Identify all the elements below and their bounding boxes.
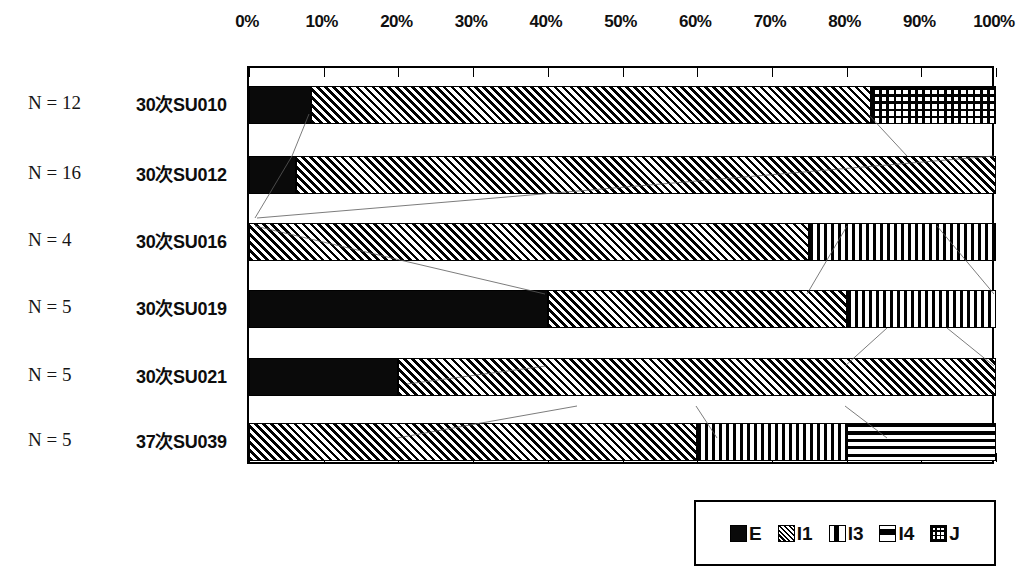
legend-item-e[interactable]: E <box>730 524 762 543</box>
bar-row <box>249 358 992 396</box>
bar-segment-i3 <box>697 423 846 461</box>
legend-swatch-icon <box>879 525 896 542</box>
legend-item-i3[interactable]: I3 <box>829 524 864 543</box>
bar-segment-i4 <box>847 423 996 461</box>
tick-mark <box>996 68 997 77</box>
bar-row <box>249 223 992 261</box>
bar-segment-e <box>249 358 398 396</box>
category-label: 30次SU012 <box>136 154 227 192</box>
bar-segment-i1 <box>311 86 871 124</box>
sample-size-label: N = 5 <box>28 356 71 394</box>
legend: EI1I3I4J <box>694 500 996 566</box>
x-tick-label: 10% <box>305 12 338 32</box>
x-tick-label: 100% <box>973 12 1014 32</box>
legend-label: I4 <box>898 524 914 543</box>
bar-row <box>249 423 992 461</box>
bar-segment-i3 <box>809 223 996 261</box>
x-axis-tick-labels: 0%10%20%30%40%50%60%70%80%90%100% <box>247 12 994 36</box>
category-label: 30次SU019 <box>136 288 227 326</box>
bar-segment-e <box>249 156 296 194</box>
bar-row <box>249 290 992 328</box>
legend-item-j[interactable]: J <box>930 524 960 543</box>
legend-swatch-icon <box>930 525 947 542</box>
bar-row <box>249 86 992 124</box>
bar-segment-j <box>871 86 996 124</box>
legend-swatch-icon <box>829 525 846 542</box>
bar-row <box>249 156 992 194</box>
category-label: 37次SU039 <box>136 421 227 459</box>
legend-label: E <box>749 524 762 543</box>
sample-size-label: N = 16 <box>28 154 81 192</box>
x-tick-label: 40% <box>530 12 563 32</box>
sample-size-label: N = 12 <box>28 84 81 122</box>
bar-segment-i1 <box>548 290 847 328</box>
sample-size-label: N = 5 <box>28 288 71 326</box>
x-tick-label: 70% <box>754 12 787 32</box>
legend-label: I3 <box>848 524 864 543</box>
x-tick-label: 30% <box>455 12 488 32</box>
x-tick-label: 50% <box>604 12 637 32</box>
chart-page: { "chart_data": { "type": "bar", "orient… <box>0 0 1031 586</box>
bar-segment-e <box>249 86 311 124</box>
x-tick-label: 90% <box>903 12 936 32</box>
x-tick-label: 60% <box>679 12 712 32</box>
legend-swatch-icon <box>730 525 747 542</box>
bar-segment-i3 <box>847 290 996 328</box>
x-tick-label: 0% <box>235 12 259 32</box>
legend-item-i4[interactable]: I4 <box>879 524 914 543</box>
legend-label: J <box>949 524 960 543</box>
bar-segment-e <box>249 290 548 328</box>
sample-size-label: N = 4 <box>28 221 71 259</box>
bar-segment-i1 <box>249 423 697 461</box>
category-label: 30次SU016 <box>136 221 227 259</box>
sample-size-label: N = 5 <box>28 421 71 459</box>
x-tick-label: 20% <box>380 12 413 32</box>
category-label: 30次SU021 <box>136 356 227 394</box>
legend-item-i1[interactable]: I1 <box>778 524 813 543</box>
bar-segment-i1 <box>296 156 996 194</box>
plot-area <box>247 66 994 464</box>
legend-swatch-icon <box>778 525 795 542</box>
stacked-bars <box>249 68 992 462</box>
x-tick-label: 80% <box>828 12 861 32</box>
tick-mark <box>996 453 997 462</box>
bar-segment-i1 <box>249 223 809 261</box>
legend-label: I1 <box>797 524 813 543</box>
category-label: 30次SU010 <box>136 84 227 122</box>
bar-segment-i1 <box>398 358 996 396</box>
